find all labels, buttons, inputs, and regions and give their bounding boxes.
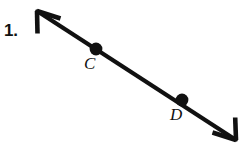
figure-canvas: 1. C D: [0, 0, 244, 147]
line-figure-svg: [0, 0, 244, 147]
line-segment-cd: [37, 11, 236, 140]
point-label-d: D: [170, 106, 182, 124]
problem-number: 1.: [4, 22, 18, 40]
point-label-c: C: [84, 55, 95, 73]
